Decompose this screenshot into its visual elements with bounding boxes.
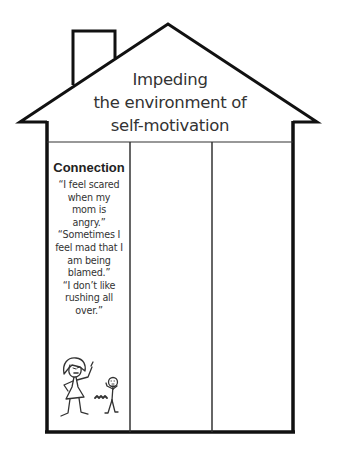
quote-line: “Sometimes I (49, 229, 129, 242)
quote-line: “I feel scared (49, 179, 129, 192)
roof-title: Impeding the environment of self-motivat… (90, 68, 250, 137)
roof-title-line: self-motivation (90, 114, 250, 137)
roof-title-line: Impeding (90, 68, 250, 91)
angry-mother-and-child-illustration (50, 355, 130, 430)
quote-line: blamed.” (49, 267, 129, 280)
quote: “Sometimes I feel mad that I am being bl… (49, 229, 129, 279)
quote-line: when my (49, 192, 129, 205)
quote-line: rushing all (49, 292, 129, 305)
quote-line: over.” (49, 305, 129, 318)
quote-line: “I don’t like (49, 280, 129, 293)
quote-line: am being (49, 255, 129, 268)
quote: “I feel scared when my mom is angry.” (49, 179, 129, 229)
quote: “I don’t like rushing all over.” (49, 280, 129, 318)
column-2 (131, 143, 211, 432)
quote-line: mom is (49, 204, 129, 217)
column-3 (213, 143, 292, 432)
quote-line: angry.” (49, 217, 129, 230)
roof-title-line: the environment of (90, 91, 250, 114)
quote-line: feel mad that I (49, 242, 129, 255)
column-heading: Connection (49, 160, 129, 175)
